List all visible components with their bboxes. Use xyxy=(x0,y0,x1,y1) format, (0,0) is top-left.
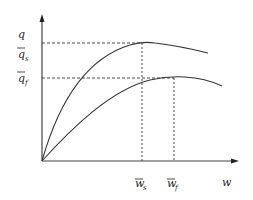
s-curve xyxy=(42,42,208,161)
svg-text:s: s xyxy=(25,55,29,63)
wf-label: w f xyxy=(167,177,179,192)
svg-text:q: q xyxy=(18,48,25,61)
y-axis-label: q xyxy=(18,28,25,41)
svg-text:f: f xyxy=(24,79,29,87)
qf-label: q f xyxy=(17,72,29,87)
x-axis-arrow-icon xyxy=(231,159,239,164)
svg-text:f: f xyxy=(174,184,179,192)
svg-text:s: s xyxy=(143,184,147,192)
svg-text:q: q xyxy=(18,72,25,85)
x-axis-label: w xyxy=(222,176,232,189)
load-displacement-diagram: q q s q f w s w f w xyxy=(0,0,253,200)
y-axis-arrow-icon xyxy=(40,14,45,22)
ws-label: w s xyxy=(135,177,147,192)
qs-label: q s xyxy=(17,48,29,63)
f-curve xyxy=(42,77,222,161)
